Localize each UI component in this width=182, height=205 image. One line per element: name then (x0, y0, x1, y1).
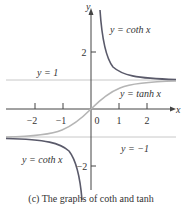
coth-upper-label: y = coth x (109, 24, 151, 35)
coth-lower-label: y = coth x (21, 154, 63, 165)
x-axis-label: x (175, 104, 181, 115)
y-axis-label: y (85, 1, 91, 12)
y-tick-label-2: 2 (82, 47, 87, 58)
x-tick-label-1: 1 (117, 115, 122, 126)
coth-curve-positive (100, 10, 176, 80)
y-tick-label-m2: −2 (77, 161, 88, 172)
x-tick-label-2: 2 (145, 115, 150, 126)
x-tick-label-m2: −2 (27, 115, 38, 126)
asymptote-pos-label: y = 1 (36, 67, 58, 78)
figure-caption: (c) The graphs of coth and tanh (0, 193, 182, 204)
asymptote-neg-label: y = −1 (120, 143, 149, 154)
coth-curve-negative (6, 139, 82, 201)
x-tick-label-0: 0 (95, 115, 100, 126)
tanh-label: y = tanh x (119, 88, 161, 99)
x-tick-label-m1: −1 (56, 115, 67, 126)
chart: y x −2 −1 0 1 2 2 −2 y = coth x y = tanh… (0, 0, 182, 205)
